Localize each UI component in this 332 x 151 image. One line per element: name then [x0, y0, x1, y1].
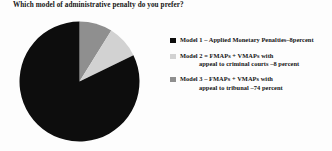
legend-label-model-2-line1: Model 2 = FMAPs + VMAPs with [180, 52, 273, 59]
chart-legend: Model 1 – Applied Monetary Penalties–8pe… [170, 36, 330, 99]
legend-label-model-3-line1: Model 3 – FMAPs + VMAPs with [180, 75, 273, 82]
legend-swatch-icon-model-1 [170, 38, 176, 44]
chart-title: Which model of administrative penalty do… [13, 1, 313, 10]
legend-item-model-1: Model 1 – Applied Monetary Penalties–8pe… [170, 36, 330, 45]
legend-swatch-icon-model-2 [170, 54, 176, 60]
legend-label-model-2-line2: appeal to criminal courts –8 percent [180, 60, 330, 68]
pie-svg [19, 21, 140, 142]
legend-label-model-3-line2: appeal to tribunal –74 percent [180, 84, 330, 92]
legend-label-model-1: Model 1 – Applied Monetary Penalties–8pe… [180, 36, 330, 44]
legend-label-model-3: Model 3 – FMAPs + VMAPs with appeal to t… [180, 75, 330, 91]
legend-swatch-icon-model-3 [170, 77, 176, 83]
legend-item-model-2: Model 2 = FMAPs + VMAPs with appeal to c… [170, 52, 330, 68]
legend-label-model-1-line1: Model 1 – Applied Monetary Penalties–8pe… [180, 36, 314, 43]
pie-chart-plot [19, 21, 140, 142]
legend-label-model-2: Model 2 = FMAPs + VMAPs with appeal to c… [180, 52, 330, 68]
pie-chart-figure: Which model of administrative penalty do… [0, 0, 332, 151]
legend-item-model-3: Model 3 – FMAPs + VMAPs with appeal to t… [170, 75, 330, 91]
